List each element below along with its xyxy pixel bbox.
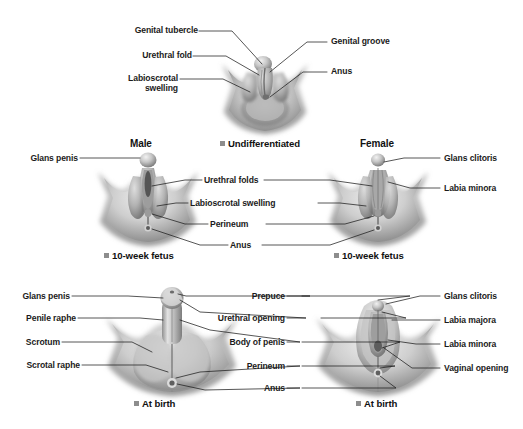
label-scrotal-raphe: Scrotal raphe	[0, 360, 80, 370]
bullet-square-icon	[356, 401, 361, 406]
label-vaginal-opening: Vaginal opening	[444, 363, 508, 373]
label-urethral-fold: Urethral fold	[100, 50, 192, 60]
art-birth-female	[316, 300, 440, 396]
label-labia-minora-fetus: Labia minora	[444, 183, 496, 193]
label-anus-undifferentiated: Anus	[331, 66, 352, 76]
label-glans-penis-birth: Glans penis	[0, 291, 70, 301]
label-anus-fetus: Anus	[230, 240, 251, 250]
label-labia-minora-birth: Labia minora	[444, 339, 496, 349]
art-undifferentiated	[222, 56, 308, 134]
bullet-square-icon	[104, 253, 109, 258]
caption-female-fetus: 10-week fetus	[334, 250, 404, 261]
art-fetus-male	[98, 153, 198, 247]
label-glans-clitoris-fetus: Glans clitoris	[444, 153, 497, 163]
bullet-square-icon	[134, 401, 139, 406]
label-urethral-opening: Urethral opening	[202, 313, 285, 323]
label-genital-tubercle: Genital tubercle	[100, 25, 198, 35]
heading-male: Male	[130, 138, 152, 149]
label-penile-raphe: Penile raphe	[0, 313, 76, 323]
caption-male-birth: At birth	[134, 398, 175, 409]
label-perineum-birth: Perineum	[222, 361, 285, 371]
label-prepuce: Prepuce	[222, 291, 285, 301]
label-labioscrotal-swelling: Labioscrotal swelling	[116, 73, 178, 94]
figure-canvas: Genital tubercle Urethral fold Labioscro…	[0, 0, 523, 429]
art-fetus-female	[328, 154, 428, 247]
label-anus-birth: Anus	[240, 383, 285, 393]
bullet-square-icon	[220, 141, 225, 146]
heading-female: Female	[360, 138, 394, 149]
label-genital-groove: Genital groove	[331, 36, 390, 46]
label-labioscrotal-swelling-fetus: Labioscrotal swelling	[190, 198, 275, 208]
bullet-square-icon	[334, 253, 339, 258]
caption-male-fetus: 10-week fetus	[104, 250, 174, 261]
label-glans-clitoris-birth: Glans clitoris	[444, 291, 497, 301]
label-labia-majora: Labia majora	[444, 315, 496, 325]
label-perineum-fetus: Perineum	[210, 219, 248, 229]
caption-undifferentiated: Undifferentiated	[220, 138, 300, 149]
label-urethral-folds: Urethral folds	[204, 175, 258, 185]
label-glans-penis-fetus: Glans penis	[0, 153, 78, 163]
label-body-of-penis: Body of penis	[212, 337, 285, 347]
caption-female-birth: At birth	[356, 398, 397, 409]
label-scrotum: Scrotum	[0, 337, 60, 347]
